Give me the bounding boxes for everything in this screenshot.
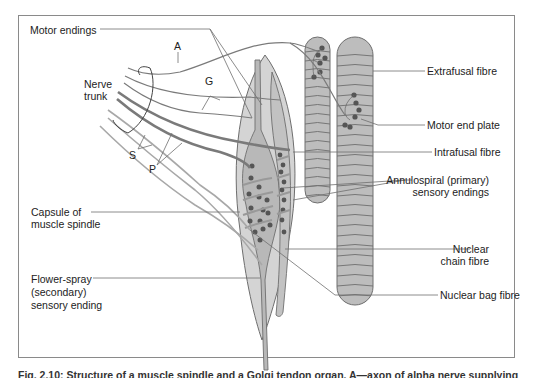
label-annulospiral-1: Annulospiral (primary) — [386, 174, 489, 187]
letter-g: G — [205, 75, 213, 87]
label-flower-spray-1: Flower-spray — [31, 273, 92, 286]
letter-s: S — [129, 149, 136, 161]
muscle-spindle-diagram: Motor endings Nerve trunk Capsule of mus… — [0, 0, 546, 378]
label-capsule-1: Capsule of — [31, 206, 81, 219]
label-capsule-2: muscle spindle — [31, 218, 100, 231]
label-flower-spray-3: sensory ending — [31, 299, 102, 312]
label-annulospiral-2: sensory endings — [413, 186, 489, 199]
letter-a: A — [174, 40, 181, 52]
label-flower-spray-2: (secondary) — [31, 286, 86, 299]
label-nerve-trunk-2: trunk — [84, 90, 107, 103]
label-intrafusal-fibre: Intrafusal fibre — [434, 146, 501, 159]
label-extrafusal-fibre: Extrafusal fibre — [427, 65, 497, 78]
extrafusal-fibre-long — [337, 37, 373, 305]
label-nerve-trunk-1: Nerve — [84, 78, 112, 91]
letter-p: P — [149, 163, 156, 175]
label-nuclear-chain-1: Nuclear — [453, 243, 489, 256]
label-nuclear-chain-2: chain fibre — [441, 255, 489, 268]
label-motor-end-plate: Motor end plate — [427, 119, 500, 132]
figure-caption: Fig. 2.10: Structure of a muscle spindle… — [18, 368, 528, 378]
label-motor-endings: Motor endings — [30, 24, 97, 37]
label-nuclear-bag-fibre: Nuclear bag fibre — [440, 289, 520, 302]
